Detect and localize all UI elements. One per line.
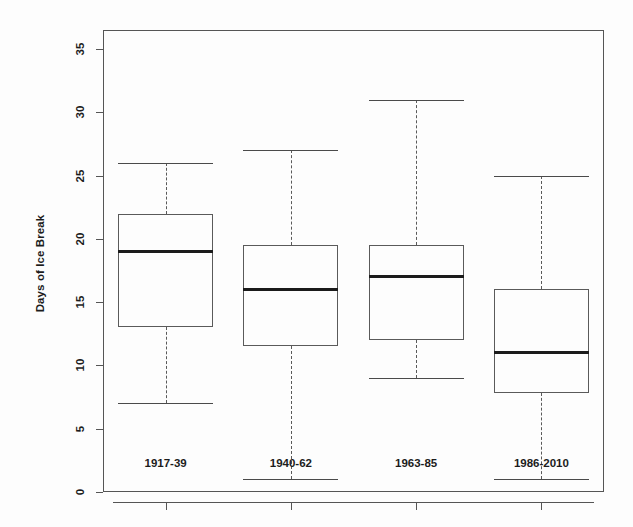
- box-iqr-rect[interactable]: [369, 245, 464, 340]
- whisker-cap-lower: [118, 403, 213, 404]
- y-axis-tick: [96, 112, 103, 113]
- whisker-lower: [166, 327, 167, 403]
- x-axis-tick-label: 1963-85: [371, 457, 461, 469]
- x-axis-tick: [291, 502, 292, 510]
- x-axis-tick: [416, 502, 417, 510]
- whisker-cap-upper: [243, 150, 338, 151]
- y-axis-tick: [96, 492, 103, 493]
- whisker-upper: [416, 100, 417, 246]
- y-axis-tick-label: 0: [73, 479, 87, 505]
- box-iqr-rect[interactable]: [494, 289, 589, 393]
- y-axis-tick-label: 25: [73, 163, 87, 189]
- x-axis-line: [113, 502, 594, 503]
- whisker-cap-upper: [369, 100, 464, 101]
- y-axis-tick: [96, 302, 103, 303]
- box-iqr-rect[interactable]: [243, 245, 338, 346]
- median-line: [118, 250, 213, 253]
- y-axis-tick: [96, 365, 103, 366]
- y-axis-tick: [96, 239, 103, 240]
- whisker-cap-upper: [494, 176, 589, 177]
- y-axis-tick-label: 15: [73, 289, 87, 315]
- x-axis-tick-label: 1917-39: [121, 457, 211, 469]
- x-axis-tick: [166, 502, 167, 510]
- y-axis-tick-label: 35: [73, 36, 87, 62]
- y-axis-title: Days of Ice Break: [28, 0, 52, 527]
- whisker-lower: [416, 340, 417, 378]
- whisker-upper: [541, 176, 542, 290]
- x-axis-tick-label: 1940-62: [246, 457, 336, 469]
- y-axis-tick: [96, 429, 103, 430]
- median-line: [494, 351, 589, 354]
- whisker-cap-lower: [494, 479, 589, 480]
- y-axis-tick: [96, 49, 103, 50]
- boxplot-figure: Days of Ice Break 05101520253035 1917-39…: [0, 0, 633, 527]
- whisker-cap-upper: [118, 163, 213, 164]
- y-axis-tick-label: 10: [73, 352, 87, 378]
- box-iqr-rect[interactable]: [118, 214, 213, 328]
- whisker-cap-lower: [243, 479, 338, 480]
- median-line: [243, 288, 338, 291]
- x-axis-tick-label: 1986-2010: [496, 457, 586, 469]
- y-axis-tick: [96, 176, 103, 177]
- x-axis: 1917-391940-621963-851986-2010: [103, 492, 604, 493]
- whisker-upper: [166, 163, 167, 214]
- x-axis-tick: [541, 502, 542, 510]
- y-axis-tick-label: 30: [73, 99, 87, 125]
- y-axis-tick-label: 20: [73, 226, 87, 252]
- median-line: [369, 275, 464, 278]
- y-axis-tick-label: 5: [73, 416, 87, 442]
- whisker-upper: [291, 150, 292, 245]
- whisker-cap-lower: [369, 378, 464, 379]
